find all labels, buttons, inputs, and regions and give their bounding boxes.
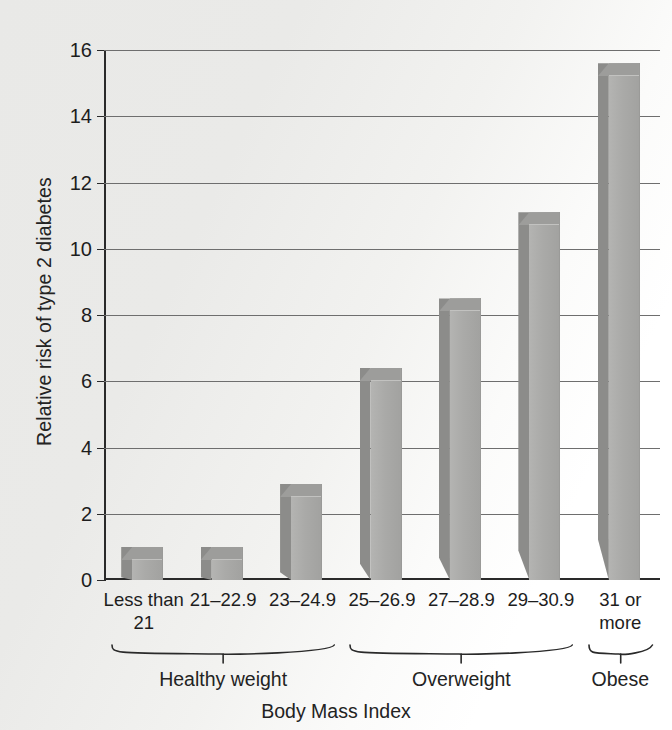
gridline	[104, 183, 660, 184]
y-tick-label: 0	[81, 569, 92, 592]
bar-top-edge	[132, 559, 162, 560]
bar-top-edge	[371, 380, 401, 381]
bar-front-face	[371, 368, 402, 580]
bar-top-edge	[212, 559, 242, 560]
bar	[360, 368, 401, 580]
group-label: Overweight	[348, 668, 574, 691]
x-tick-label: 31 or more	[577, 588, 664, 634]
x-axis-label: Body Mass Index	[0, 700, 672, 723]
bar	[280, 484, 321, 580]
bar-side-face	[598, 63, 609, 580]
x-tick-label: 23–24.9	[259, 588, 346, 611]
bar-top-edge	[609, 75, 639, 76]
bar	[439, 298, 480, 580]
gridline	[104, 116, 660, 117]
y-tick-label: 12	[70, 171, 92, 194]
x-tick-label: 27–28.9	[418, 588, 505, 611]
bar	[518, 212, 559, 580]
gridline	[104, 315, 660, 316]
bar-front-face	[609, 63, 640, 580]
bar	[121, 547, 162, 580]
bar-top-edge	[291, 496, 321, 497]
x-tick-label: 29–30.9	[497, 588, 584, 611]
y-axis-label: Relative risk of type 2 diabetes	[33, 102, 56, 522]
bar	[201, 547, 242, 580]
y-tick-mark	[97, 580, 104, 581]
gridline	[104, 50, 660, 51]
y-tick-label: 6	[81, 370, 92, 393]
bar	[598, 63, 639, 580]
group-label: Healthy weight	[110, 668, 336, 691]
x-tick-label: Less than 21	[100, 588, 187, 634]
y-tick-mark	[97, 448, 104, 449]
y-tick-mark	[97, 50, 104, 51]
y-tick-mark	[97, 514, 104, 515]
plot-area: 0246810121416	[104, 50, 660, 580]
bar-side-face	[439, 298, 450, 580]
y-tick-label: 4	[81, 436, 92, 459]
y-tick-label: 10	[70, 237, 92, 260]
group-label: Obese	[587, 668, 654, 691]
y-tick-mark	[97, 183, 104, 184]
x-tick-label: 21–22.9	[179, 588, 266, 611]
bar-side-face	[360, 368, 371, 580]
y-tick-mark	[97, 381, 104, 382]
chart-figure: Relative risk of type 2 diabetes 0246810…	[0, 0, 672, 730]
y-tick-mark	[97, 116, 104, 117]
x-tick-label: 25–26.9	[338, 588, 425, 611]
y-tick-mark	[97, 315, 104, 316]
bar-front-face	[529, 212, 560, 580]
y-tick-label: 16	[70, 39, 92, 62]
group-brace	[348, 644, 574, 664]
bar-side-face	[518, 212, 529, 580]
group-brace	[110, 644, 336, 664]
bar-top-edge	[529, 224, 559, 225]
bar-top-edge	[450, 310, 480, 311]
bar-front-face	[291, 484, 322, 580]
gridline	[104, 249, 660, 250]
bar-side-face	[280, 484, 291, 580]
y-tick-label: 14	[70, 105, 92, 128]
bar-front-face	[450, 298, 481, 580]
group-brace	[587, 644, 654, 664]
y-tick-mark	[97, 249, 104, 250]
y-tick-label: 8	[81, 304, 92, 327]
y-tick-label: 2	[81, 502, 92, 525]
